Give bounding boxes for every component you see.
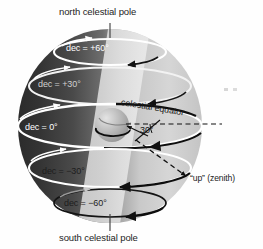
speck-two: [233, 88, 237, 91]
celestial-sphere-figure: north celestial pole south celestial pol…: [0, 0, 263, 249]
declination-label-minus-30: dec = −30°: [42, 167, 85, 176]
declination-label-minus-60: dec = −60°: [64, 199, 107, 208]
north-celestial-pole-label: north celestial pole: [59, 7, 136, 17]
declination-label-plus-60: dec = +60°: [66, 44, 109, 53]
angle-label: 30°: [140, 126, 153, 135]
speck-one: [224, 88, 228, 91]
declination-label-plus-30: dec = +30°: [38, 80, 81, 89]
declination-label-zero: dec = 0°: [25, 123, 58, 132]
south-celestial-pole-label: south celestial pole: [59, 233, 138, 243]
background-specks: [224, 88, 237, 91]
zenith-label: “up” (zenith): [190, 174, 235, 183]
